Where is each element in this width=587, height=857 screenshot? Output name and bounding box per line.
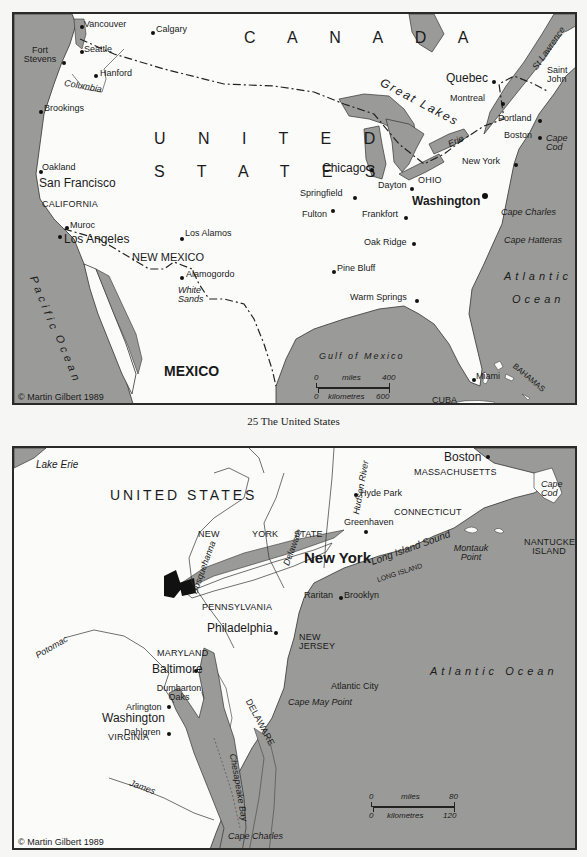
label-united: U N I T E D xyxy=(154,131,389,147)
city-dot xyxy=(514,163,518,167)
label-mexico: MEXICO xyxy=(164,364,219,378)
state-nantucket-island: NANTUCKET ISLAND xyxy=(524,538,574,556)
city-dot xyxy=(274,631,278,635)
city-saint-john: Saint John xyxy=(547,66,577,84)
city-dot xyxy=(538,119,542,123)
scale-km-end: 600 xyxy=(376,393,389,401)
label-california: CALIFORNIA xyxy=(42,200,98,209)
city-calgary: Calgary xyxy=(156,25,187,34)
city-boston: Boston xyxy=(504,131,532,140)
scale-km-start: 0 xyxy=(314,393,318,401)
city-dot xyxy=(482,193,488,199)
city-washington: Washington xyxy=(412,195,480,207)
city-new-york: New York xyxy=(304,550,371,566)
city-dot xyxy=(167,705,171,709)
city-dot xyxy=(151,31,155,35)
city-dot xyxy=(331,209,335,213)
city-oakland: Oakland xyxy=(42,163,76,172)
scale-bar: 0 miles 400 0 kilometres 600 xyxy=(314,374,404,400)
state-york: YORK xyxy=(252,530,278,539)
label-cape-may-point: Cape May Point xyxy=(288,698,352,707)
map1-terrain xyxy=(14,14,577,405)
copyright: © Martin Gilbert 1989 xyxy=(18,393,104,402)
city-dot xyxy=(353,196,357,200)
city-new-york: New York xyxy=(462,157,500,166)
city-dot xyxy=(415,299,419,303)
city-dot xyxy=(404,216,408,220)
city-baltimore: Baltimore xyxy=(152,663,203,675)
city-raritan: Raritan xyxy=(304,591,333,600)
label-montauk-point: Montauk Point xyxy=(449,544,493,562)
city-fulton: Fulton xyxy=(302,210,327,219)
scale-km-end: 120 xyxy=(443,812,456,820)
city-oak-ridge: Oak Ridge xyxy=(364,238,407,247)
state-connecticut: CONNECTICUT xyxy=(394,508,462,517)
city-fort-stevens: Fort Stevens xyxy=(22,46,58,64)
city-dot xyxy=(65,226,69,230)
label-cape-charles: Cape Charles xyxy=(228,832,283,841)
city-dot xyxy=(370,168,374,172)
label-white-sands: White Sands xyxy=(178,286,218,304)
map2-terrain xyxy=(14,448,577,850)
city-greenhaven: Greenhaven xyxy=(344,518,394,527)
scale-km-label: kilometres xyxy=(328,393,364,401)
city-los-angeles: Los Angeles xyxy=(64,233,129,245)
city-portland: Portland xyxy=(498,114,532,123)
city-atlantic-city: Atlantic City xyxy=(331,682,379,691)
scale-miles-end: 400 xyxy=(382,374,395,382)
label-cape-cod: Cape Cod xyxy=(541,480,569,498)
city-dot xyxy=(180,276,184,280)
city-boston: Boston xyxy=(444,451,481,463)
city-frankfort: Frankfort xyxy=(362,210,398,219)
scale-km-label: kilometres xyxy=(387,812,423,820)
label-cape-cod: Cape Cod xyxy=(546,134,576,152)
city-philadelphia: Philadelphia xyxy=(207,622,272,634)
city-chicago: Chicago xyxy=(322,162,366,174)
scale-miles-label: miles xyxy=(342,374,361,382)
city-alamogordo: Alamogordo xyxy=(186,270,235,279)
city-dumbarton-oaks: Dumbarton Oaks xyxy=(154,684,204,702)
city-warm-springs: Warm Springs xyxy=(350,293,407,302)
city-dot xyxy=(39,110,43,114)
label-gulf-of-mexico: Gulf of Mexico xyxy=(319,352,405,361)
scale-miles-start: 0 xyxy=(369,793,373,801)
state-new: NEW xyxy=(198,530,220,539)
scale-miles-label: miles xyxy=(401,793,420,801)
label-cape-hatteras: Cape Hatteras xyxy=(504,236,562,245)
city-dot xyxy=(62,61,66,65)
city-dot xyxy=(410,187,414,191)
city-dot xyxy=(486,455,490,459)
scale-km-start: 0 xyxy=(369,812,373,820)
city-montreal: Montreal xyxy=(450,94,485,103)
city-dot xyxy=(332,270,336,274)
scale-bar: 0 miles 80 0 kilometres 120 xyxy=(369,793,459,819)
city-hyde-park: Hyde Park xyxy=(360,489,402,498)
city-dot xyxy=(501,102,505,106)
scale-miles-end: 80 xyxy=(449,793,458,801)
label-ohio: OHIO xyxy=(418,176,442,185)
city-miami: Miami xyxy=(476,372,500,381)
city-quebec: Quebec xyxy=(446,72,488,84)
label-new-mexico: NEW MEXICO xyxy=(132,252,204,263)
state-maryland: MARYLAND xyxy=(157,649,208,658)
map-united-states: C A N A D A U N I T E D S T A T E S MEXI… xyxy=(12,12,577,405)
label-united-states: UNITED STATES xyxy=(110,488,257,502)
city-dayton: Dayton xyxy=(378,181,407,190)
label-atlantic: Atlantic xyxy=(504,271,572,282)
state-new-jersey: NEW JERSEY xyxy=(299,633,335,651)
city-dot xyxy=(412,242,416,246)
label-cuba: CUBA xyxy=(432,396,457,405)
city-muroc: Muroc xyxy=(70,221,95,230)
city-hanford: Hanford xyxy=(100,69,132,78)
city-dahlgren: Dahlgren xyxy=(124,728,161,737)
state-massachusetts: MASSACHUSETTS xyxy=(414,468,497,477)
city-dot xyxy=(492,80,496,84)
city-seattle: Seattle xyxy=(84,45,112,54)
city-san-francisco: San Francisco xyxy=(39,177,116,189)
city-springfield: Springfield xyxy=(300,189,343,198)
city-dot xyxy=(94,74,98,78)
label-lake-erie: Lake Erie xyxy=(36,460,78,470)
city-dot xyxy=(180,237,184,241)
city-dot xyxy=(58,235,62,239)
copyright: © Martin Gilbert 1989 xyxy=(18,838,104,847)
